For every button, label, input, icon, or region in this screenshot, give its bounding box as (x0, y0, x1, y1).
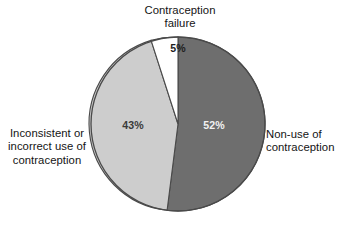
pie-chart-graphic (0, 0, 354, 229)
callout-line: Inconsistent or (1, 127, 93, 140)
callout-label-inconsistent-or-incorrect-use: Inconsistent or incorrect use of contrac… (1, 127, 93, 167)
callout-label-non-use-of-contraception: Non-use of contraception (266, 128, 354, 155)
callout-label-contraception-failure: Contraception failure (119, 4, 241, 31)
callout-line: Non-use of (266, 128, 354, 141)
slice-value-contraception-failure: 5% (166, 42, 190, 54)
callout-line: failure (119, 17, 241, 30)
callout-line: incorrect use of (1, 140, 93, 153)
callout-line: Contraception (119, 4, 241, 17)
callout-line: contraception (1, 154, 93, 167)
pie-chart-figure: Contraception failure Inconsistent or in… (0, 0, 354, 229)
slice-value-non-use-of-contraception: 52% (199, 119, 229, 131)
slice-value-inconsistent-or-incorrect-use: 43% (118, 119, 148, 131)
callout-line: contraception (266, 141, 354, 154)
